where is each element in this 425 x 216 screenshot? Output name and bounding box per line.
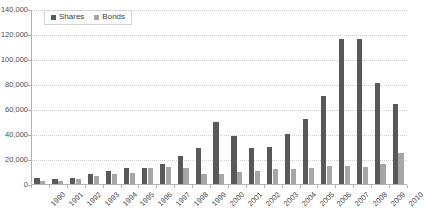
x-axis-tick-mark: [210, 185, 211, 188]
x-axis-tick-label: 2004: [299, 190, 317, 208]
legend-swatch-icon: [51, 15, 56, 20]
x-axis-tick-label: 2003: [282, 190, 300, 208]
y-axis-tick-label: 40,000: [5, 131, 28, 139]
legend-label: Bonds: [102, 13, 125, 21]
x-axis-tick-label: 2002: [264, 190, 282, 208]
legend-entry-shares[interactable]: Shares: [51, 13, 84, 21]
x-axis-tick-label: 1991: [67, 190, 85, 208]
x-axis-tick-mark: [67, 185, 68, 188]
x-axis-tick-mark: [264, 185, 265, 188]
x-axis-tick-mark: [138, 185, 139, 188]
x-axis-tick-mark: [246, 185, 247, 188]
x-axis-tick-label: 1990: [49, 190, 67, 208]
y-axis-tick-label: 140,000: [1, 6, 28, 14]
x-axis-tick-mark: [407, 185, 408, 188]
legend-label: Shares: [59, 13, 84, 21]
x-axis-tick-label: 2010: [407, 190, 425, 208]
x-axis-tick-mark: [335, 185, 336, 188]
x-axis-tick-mark: [174, 185, 175, 188]
x-axis-tick-label: 1992: [85, 190, 103, 208]
x-axis-tick-label: 2005: [317, 190, 335, 208]
x-axis-tick-mark: [85, 185, 86, 188]
x-axis-tick-label: 2000: [228, 190, 246, 208]
x-axis-tick-mark: [389, 185, 390, 188]
y-axis: 140,000120,000100,00080,00060,00040,0002…: [0, 0, 28, 216]
x-axis-tick-mark: [156, 185, 157, 188]
x-axis-tick-mark: [300, 185, 301, 188]
legend-swatch-icon: [94, 15, 99, 20]
x-axis-tick-label: 1997: [174, 190, 192, 208]
x-axis-tick-mark: [121, 185, 122, 188]
x-axis-tick-label: 1999: [210, 190, 228, 208]
plot-frame: [31, 10, 407, 185]
x-axis-tick-label: 2006: [335, 190, 353, 208]
y-axis-tick-label: 120,000: [1, 31, 28, 39]
x-axis-tick-label: 1996: [156, 190, 174, 208]
x-axis-tick-label: 2009: [389, 190, 407, 208]
y-axis-tick-label: 100,000: [1, 56, 28, 64]
x-axis-tick-mark: [103, 185, 104, 188]
x-axis-tick-label: 1994: [120, 190, 138, 208]
x-axis-tick-label: 1998: [192, 190, 210, 208]
x-axis-tick-label: 2001: [246, 190, 264, 208]
x-axis-tick-label: 2008: [371, 190, 389, 208]
chart-legend: SharesBonds: [44, 10, 132, 25]
y-axis-tick-label: 60,000: [5, 106, 28, 114]
x-axis-tick-mark: [31, 185, 32, 188]
x-axis-tick-mark: [282, 185, 283, 188]
x-axis-tick-label: 2007: [353, 190, 371, 208]
legend-entry-bonds[interactable]: Bonds: [94, 13, 125, 21]
x-axis-tick-mark: [353, 185, 354, 188]
x-axis-tick-mark: [228, 185, 229, 188]
x-axis-tick-mark: [371, 185, 372, 188]
y-axis-tick-label: 20,000: [5, 156, 28, 164]
x-axis-tick-label: 1995: [138, 190, 156, 208]
x-axis-tick-mark: [49, 185, 50, 188]
x-axis-tick-mark: [192, 185, 193, 188]
x-axis-tick-mark: [317, 185, 318, 188]
plot-area: [31, 10, 407, 185]
x-axis-tick-label: 1993: [103, 190, 121, 208]
y-axis-tick-label: 80,000: [5, 81, 28, 89]
